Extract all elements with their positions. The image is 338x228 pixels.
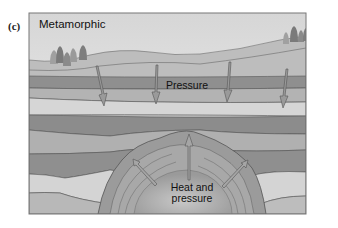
pressure-label: Pressure [166,79,208,91]
panel-label: (c) [8,20,20,32]
diagram-title: Metamorphic [39,18,105,30]
heat-pressure-label: Heat and pressure [162,182,222,204]
heat-label-line2: pressure [162,193,222,204]
